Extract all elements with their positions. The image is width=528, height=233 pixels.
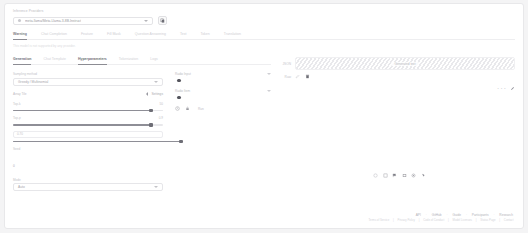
slider-fill	[13, 124, 151, 126]
dot-icon	[18, 19, 21, 22]
footer-sub-separator: |	[419, 218, 420, 222]
slider-top-k-header: Top-k 50	[13, 102, 163, 108]
footer-sublink-privacy[interactable]: Privacy Policy	[398, 218, 415, 222]
radio-item-header: Radio Item	[175, 89, 271, 93]
edit-icon[interactable]	[295, 74, 300, 79]
footer-link-github[interactable]: GitHub	[432, 213, 442, 217]
tab-question-answering[interactable]: Question Answering	[135, 32, 166, 36]
tab-text[interactable]: Text	[180, 32, 186, 36]
footer-link-research[interactable]: Research	[499, 213, 513, 217]
model-select-value: meta-llama/Meta-Llama-3-8B-Instruct	[25, 19, 81, 23]
settings-icon[interactable]	[411, 173, 416, 178]
tab-token[interactable]: Token	[200, 32, 209, 36]
footer-sublink-conduct[interactable]: Code of Conduct	[423, 218, 444, 222]
radio-input-button[interactable]	[177, 79, 181, 83]
slider-temperature: 0.70	[13, 131, 163, 143]
slider-top-k-label: Top-k	[13, 102, 21, 106]
slider-temperature-track[interactable]	[13, 141, 181, 143]
output-row-json: JSON Generated text	[281, 57, 515, 70]
subtab-tokenization[interactable]: Tokenization	[119, 57, 138, 61]
footer-separator: ·	[466, 213, 467, 217]
chevron-down-icon	[154, 186, 158, 188]
array-tile-control[interactable]: Settings	[146, 92, 163, 96]
footer-link-guide[interactable]: Guide	[452, 213, 461, 217]
image-icon[interactable]	[402, 173, 407, 178]
slider-top-p-value: 0.9	[159, 116, 163, 120]
output-placeholder-label: Generated text	[391, 62, 418, 66]
output-placeholder[interactable]: Generated text	[295, 57, 515, 70]
slider-fill	[13, 110, 151, 112]
slider-temperature-knob[interactable]	[179, 140, 182, 143]
sampling-method-label: Sampling method	[13, 72, 163, 76]
footer-sub-separator: |	[476, 218, 477, 222]
subtab-logs[interactable]: Logs	[150, 57, 158, 61]
footer-sublink-licenses[interactable]: Model Licenses	[453, 218, 472, 222]
model-select[interactable]: meta-llama/Meta-Llama-3-8B-Instruct	[13, 17, 153, 25]
footer-separator: ·	[447, 213, 448, 217]
sampling-method-field: Sampling method Greedy / Multinomial	[13, 72, 163, 86]
tab-feature[interactable]: Feature	[81, 32, 93, 36]
form-main-column: Sampling method Greedy / Multinomial Arr…	[13, 72, 163, 191]
lock-icon[interactable]	[185, 106, 190, 111]
subtab-hyperparameters[interactable]: Hyperparameters	[78, 57, 107, 61]
form-side-column: Radio Input Radio Item	[175, 72, 271, 191]
cursor-icon[interactable]	[421, 173, 426, 178]
output-json-key: JSON	[281, 62, 291, 66]
copy-button[interactable]	[158, 16, 167, 25]
footer-link-api[interactable]: API	[416, 213, 421, 217]
tab-translation[interactable]: Translation	[224, 32, 241, 36]
run-button[interactable]: Run	[198, 107, 204, 111]
copy-icon	[160, 18, 165, 23]
slider-fill	[13, 141, 181, 143]
tab-chat-completion[interactable]: Chat Completion	[41, 32, 67, 36]
footer-separator: ·	[426, 213, 427, 217]
radio-item-button[interactable]	[177, 96, 181, 100]
footer-separator: ·	[493, 213, 494, 217]
circle-icon[interactable]	[373, 173, 378, 178]
model-selector-row: meta-llama/Meta-Llama-3-8B-Instruct	[13, 16, 515, 25]
sampling-method-select[interactable]: Greedy / Multinomial	[13, 78, 163, 86]
tab-warning[interactable]: Warning	[13, 32, 27, 36]
chevron-down-icon	[154, 81, 158, 83]
sampling-method-value: Greedy / Multinomial	[18, 80, 48, 84]
pencil-icon[interactable]	[510, 86, 515, 91]
tab-fill-mask[interactable]: Fill Mask	[107, 32, 121, 36]
mode-value: Auto	[18, 185, 25, 189]
radio-item-label: Radio Item	[175, 89, 190, 93]
support-hint: This model is not supported by any provi…	[13, 44, 515, 48]
output-row-raw: Raw	[281, 74, 515, 79]
subtab-generation[interactable]: Generation	[13, 57, 31, 61]
output-footer-dots: • • •	[498, 87, 506, 91]
output-raw-key: Raw	[281, 75, 291, 79]
radio-input-header: Radio Input	[175, 72, 271, 76]
array-tile-row: Array Tile Settings	[13, 92, 163, 96]
footer-link-participants[interactable]: Participants	[472, 213, 489, 217]
flag-icon[interactable]	[392, 173, 397, 178]
seed-field: Seed 0	[13, 147, 163, 171]
slider-top-k-knob[interactable]	[149, 109, 152, 112]
footer-sublink-contact[interactable]: Contact	[504, 218, 514, 222]
slider-top-k: Top-k 50	[13, 102, 163, 112]
footer-links: API · GitHub · Guide · Participants · Re…	[367, 213, 515, 217]
footer-sublink-status[interactable]: Status Page	[480, 218, 495, 222]
seed-label: Seed	[13, 147, 163, 151]
output-actions	[295, 74, 310, 79]
mode-select[interactable]: Auto	[13, 183, 163, 191]
subtab-chat-template[interactable]: Chat Template	[43, 57, 66, 61]
seed-value[interactable]: 0	[13, 164, 15, 168]
square-icon[interactable]	[383, 173, 388, 178]
temperature-input[interactable]: 0.70	[13, 131, 163, 138]
slider-top-p-track[interactable]	[13, 124, 163, 126]
slider-top-p-header: Top-p 0.9	[13, 116, 163, 122]
mode-label: Mode	[13, 178, 163, 182]
slider-top-p-knob[interactable]	[149, 123, 152, 126]
chevron-down-icon	[144, 20, 148, 22]
settings-tabs: Generation Chat Template Hyperparameters…	[13, 57, 271, 65]
trash-icon[interactable]	[305, 74, 310, 79]
slider-top-k-track[interactable]	[13, 110, 163, 112]
bottom-toolbar	[373, 173, 426, 178]
clock-icon[interactable]	[175, 106, 180, 111]
page-title: Inference Providers	[13, 9, 515, 14]
footer-sublink-terms[interactable]: Terms of Service	[368, 218, 389, 222]
array-tile-value: Settings	[151, 92, 163, 96]
